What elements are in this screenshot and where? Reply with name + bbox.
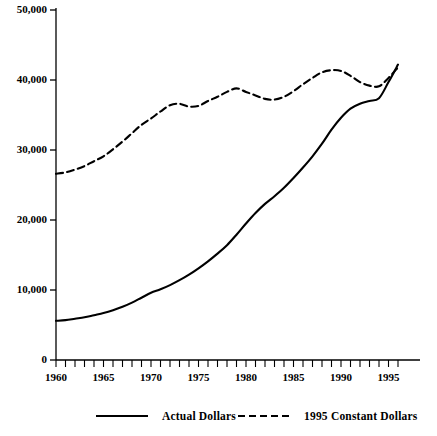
legend-swatch-solid-line-icon [96,411,148,421]
legend-label-1995-constant-dollars: 1995 Constant Dollars [304,410,417,422]
y-axis-label-50000: 50,000 [17,4,47,15]
chart-axes [56,8,420,360]
y-axis-label-10000: 10,000 [17,284,47,295]
x-axis-label-1960: 1960 [31,372,81,383]
x-axis-label-1965: 1965 [79,372,129,383]
y-axis-label-40000: 40,000 [17,74,47,85]
y-axis-label-0: 0 [42,354,48,365]
series-line-actual-dollars [56,65,398,321]
legend-item-1995-constant-dollars: 1995 Constant Dollars [238,407,417,425]
series-line-1995-constant-dollars [56,67,398,173]
legend-item-actual-dollars: Actual Dollars [96,407,236,425]
x-axis-label-1975: 1975 [174,372,224,383]
legend-label-actual-dollars: Actual Dollars [162,410,236,422]
x-axis-label-1970: 1970 [126,372,176,383]
x-axis-label-1985: 1985 [269,372,319,383]
chart-legend: Actual Dollars 1995 Constant Dollars [0,404,437,428]
y-axis-label-30000: 30,000 [17,144,47,155]
x-axis-label-1995: 1995 [364,372,414,383]
y-axis-label-20000: 20,000 [17,214,47,225]
chart-series-lines [56,65,398,321]
x-axis-label-1990: 1990 [316,372,366,383]
legend-swatch-dashed-line-icon [238,411,290,421]
x-axis-label-1980: 1980 [221,372,271,383]
chart-container: 010,00020,00030,00040,00050,000 19601965… [0,0,437,436]
